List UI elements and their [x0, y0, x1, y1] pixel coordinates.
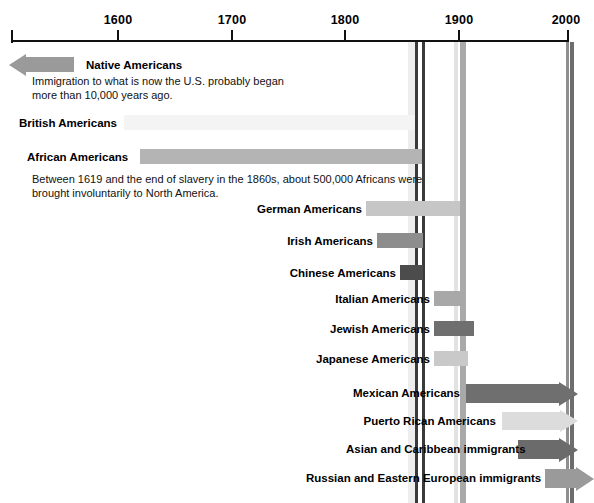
row-label-german-americans: German Americans: [238, 203, 362, 215]
row-label-african-americans: African Americans: [27, 151, 128, 163]
axis-label-1700: 1700: [218, 13, 247, 27]
row-label-irish-americans: Irish Americans: [249, 235, 373, 247]
axis-label-1900: 1900: [445, 13, 474, 27]
axis-label-2000: 2000: [552, 13, 581, 27]
axis-cap-left: [11, 30, 13, 43]
arrow-right-icon: [576, 467, 594, 491]
row-label-mexican-americans: Mexican Americans: [310, 387, 460, 399]
row-label-puerto-rican-americans: Puerto Rican Americans: [346, 415, 496, 427]
axis-tick-2000: [567, 30, 569, 40]
axis-tick-1700: [231, 30, 233, 40]
bar-british-americans: [124, 115, 415, 130]
bar-asian-caribbean-immigrants: [518, 440, 578, 459]
row-label-asian-caribbean-immigrants: Asian and Caribbean immigrants: [346, 443, 512, 455]
axis-tick-1900: [458, 30, 460, 40]
bar-puerto-rican-americans: [502, 412, 578, 430]
immigration-timeline-chart: 1600 1700 1800 1900 2000 Native American…: [0, 0, 594, 503]
row-label-jewish-americans: Jewish Americans: [306, 323, 430, 335]
vline-german-edge: [460, 42, 466, 503]
arrow-left-icon: [9, 54, 26, 76]
axis-label-1800: 1800: [331, 13, 360, 27]
axis-label-1600: 1600: [104, 13, 133, 27]
note-african-americans: Between 1619 and the end of slavery in t…: [32, 172, 422, 200]
vline-german-right: [454, 42, 458, 503]
bar-russian-eastern-european-immigrants: [545, 469, 593, 488]
bar-jewish-americans: [434, 321, 474, 336]
bar-italian-americans: [434, 291, 465, 306]
bar-mexican-americans: [466, 384, 578, 403]
timeline-axis: [11, 40, 569, 42]
note-native-americans: Immigration to what is now the U.S. prob…: [32, 74, 284, 102]
bar-chinese-americans: [400, 265, 423, 280]
row-label-british-americans: British Americans: [19, 117, 117, 129]
row-label-russian-eastern-european-immigrants: Russian and Eastern European immigrants: [306, 472, 539, 484]
row-label-native-americans: Native Americans: [86, 59, 182, 71]
bar-japanese-americans: [434, 351, 468, 366]
arrow-right-icon: [559, 438, 578, 462]
bar-german-americans: [366, 201, 460, 216]
row-label-italian-americans: Italian Americans: [306, 293, 430, 305]
row-label-japanese-americans: Japanese Americans: [306, 353, 430, 365]
vline-2000-a: [566, 42, 569, 503]
vline-2000-b: [570, 42, 574, 503]
row-label-chinese-americans: Chinese Americans: [272, 267, 396, 279]
bar-native-americans: [10, 57, 74, 72]
axis-tick-1600: [117, 30, 119, 40]
bar-irish-americans: [377, 233, 423, 248]
axis-tick-1800: [344, 30, 346, 40]
arrow-right-icon: [560, 410, 578, 432]
bar-african-americans: [140, 149, 422, 164]
arrow-right-icon: [559, 382, 578, 406]
